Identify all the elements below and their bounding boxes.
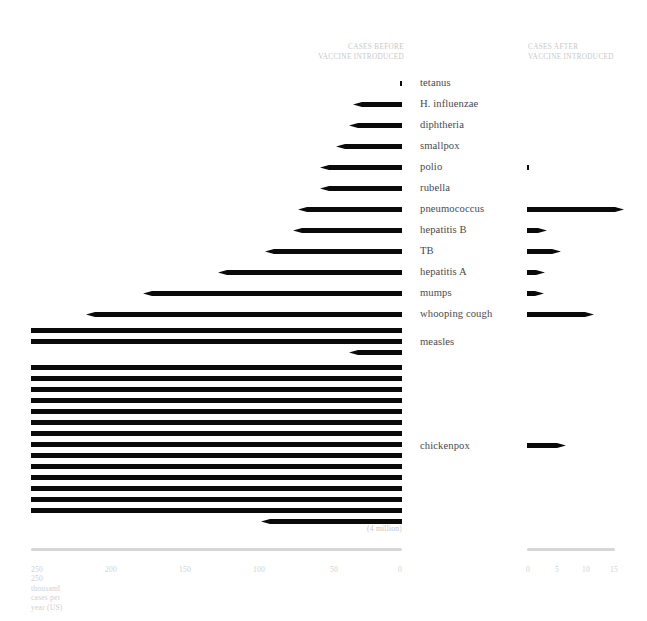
row-label-tetanus: tetanus — [420, 77, 451, 88]
column-header-after: CASES AFTER VACCINE INTRODUCED — [528, 42, 647, 62]
left-axis-tick-200: 200 — [105, 565, 117, 574]
right-axis-tick-10: 10 — [582, 565, 590, 574]
row-label-rubella: rubella — [420, 182, 450, 193]
row-label-hepatitis-b: hepatitis B — [420, 224, 467, 235]
row-label-smallpox: smallpox — [420, 140, 460, 151]
bar-before-h-influenzae — [362, 102, 402, 107]
bar-before-chickenpox-row-12 — [31, 486, 402, 491]
row-label-pneumococcus: pneumococcus — [420, 203, 484, 214]
annotation-four-million: (4 million) — [330, 524, 402, 533]
row-label-mumps: mumps — [420, 287, 452, 298]
chart-canvas: CASES BEFORE VACCINE INTRODUCED CASES AF… — [0, 0, 647, 621]
right-axis-tick-5: 5 — [555, 565, 559, 574]
column-header-before: CASES BEFORE VACCINE INTRODUCED — [300, 42, 404, 62]
right-axis-tick-0: 0 — [526, 565, 530, 574]
right-axis-tick-15: 15 — [610, 565, 618, 574]
bar-before-rubella — [329, 186, 402, 191]
row-label-chickenpox: chickenpox — [420, 440, 470, 451]
bar-before-measles-row-1 — [31, 328, 402, 333]
bar-before-chickenpox-row-9 — [31, 453, 402, 458]
left-axis-rule — [31, 548, 402, 551]
bar-before-chickenpox-row-5 — [31, 409, 402, 414]
bar-after-chickenpox — [527, 443, 557, 448]
bar-before-chickenpox-row-8 — [31, 442, 402, 447]
bar-before-chickenpox-row-14 — [31, 508, 402, 513]
bar-before-hepatitis-b — [302, 228, 402, 233]
bar-before-pneumococcus — [307, 207, 402, 212]
row-label-hepatitis-a: hepatitis A — [420, 266, 467, 277]
left-axis-tick-50: 50 — [330, 565, 338, 574]
bar-before-smallpox — [345, 144, 402, 149]
bar-before-chickenpox-row-4 — [31, 398, 402, 403]
bar-after-mumps — [527, 291, 535, 296]
left-axis-tick-150: 150 — [179, 565, 191, 574]
bar-before-measles-row-2 — [31, 339, 402, 344]
bar-before-chickenpox-row-2 — [31, 376, 402, 381]
row-label-diphtheria: diphtheria — [420, 119, 464, 130]
left-axis-caption: 250 thousand cases per year (US) — [31, 574, 101, 612]
bar-after-pneumococcus — [527, 207, 615, 212]
row-label-polio: polio — [420, 161, 442, 172]
left-axis-tick-250: 250 — [31, 565, 43, 574]
bar-before-mumps — [152, 291, 402, 296]
bar-before-tb — [274, 249, 402, 254]
bar-after-tb — [527, 249, 552, 254]
bar-before-whooping-cough — [95, 312, 402, 317]
row-label-measles: measles — [420, 336, 454, 347]
left-axis-tick-0: 0 — [398, 565, 402, 574]
bar-before-chickenpox-row-1 — [31, 365, 402, 370]
bar-before-chickenpox-row-3 — [31, 387, 402, 392]
bar-before-polio — [329, 165, 402, 170]
bar-before-chickenpox-row-10 — [31, 464, 402, 469]
bar-after-hepatitis-b — [527, 228, 538, 233]
left-axis-tick-100: 100 — [253, 565, 265, 574]
bar-after-hepatitis-a — [527, 270, 536, 275]
row-label-whooping-cough: whooping cough — [420, 308, 492, 319]
bar-after-polio — [527, 165, 529, 170]
bar-before-chickenpox-row-7 — [31, 431, 402, 436]
bar-before-measles-row-3 — [358, 350, 402, 355]
right-axis-rule — [527, 548, 615, 551]
bar-before-chickenpox-row-6 — [31, 420, 402, 425]
bar-after-whooping-cough — [527, 312, 585, 317]
bar-before-tetanus — [400, 81, 402, 86]
row-label-h-influenzae: H. influenzae — [420, 98, 478, 109]
row-label-tb: TB — [420, 245, 434, 256]
bar-before-diphtheria — [358, 123, 402, 128]
bar-before-chickenpox-row-11 — [31, 475, 402, 480]
bar-before-hepatitis-a — [227, 270, 402, 275]
bar-before-chickenpox-row-13 — [31, 497, 402, 502]
